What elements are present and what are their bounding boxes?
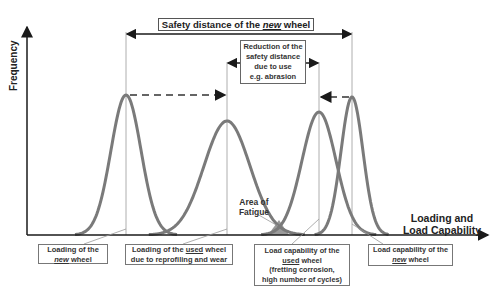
label-text: wheel [69,255,92,264]
leader-lines [84,214,383,244]
title-text-post: wheel [281,19,310,30]
label-line: Loading of the used wheel [126,245,232,255]
safety-distance-diagram: Safety distance of the new wheel Reducti… [0,0,493,300]
title-text-em: new [263,19,281,30]
x-axis-label: Loading and Load Capability [397,212,487,236]
label-line: new wheel [369,255,452,265]
label-line: Load capability of the [369,245,452,255]
reduction-line: due to use [241,62,305,72]
fatigue-label-line: Fatigue [231,207,277,217]
fatigue-label: Area of Fatigue [231,197,277,217]
x-axis-label-line: Loading and [397,212,487,224]
label-line: Load capability of the [255,246,349,256]
label-text: Loading of the [132,245,186,254]
loading-used-label: Loading of the used wheel due to reprofi… [125,244,233,265]
label-line: Loading of the [39,245,107,255]
reduction-line: Reduction of the [241,42,305,52]
label-line: due to reprofiling and wear [126,255,232,265]
capability-new-label: Load capability of the new wheel [368,244,453,266]
label-line: new wheel [39,255,107,265]
x-axis-label-line: Load Capability [397,224,487,236]
label-text: wheel [299,256,321,265]
fatigue-label-line: Area of [231,197,277,207]
reduction-line: e.g. abrasion [241,72,305,82]
y-axis-label: Frequency [8,36,20,96]
label-em: used [186,245,204,254]
capability-used-label: Load capability of the used wheel (frett… [254,244,350,286]
reduction-label: Reduction of the safety distance due to … [240,40,306,84]
label-em: used [282,256,299,265]
label-line: high number of cycles) [255,275,349,285]
label-line: used wheel [255,256,349,266]
reduction-line: safety distance [241,52,305,62]
safety-distance-label: Safety distance of the new wheel [158,18,314,31]
label-text: wheel [203,245,226,254]
title-text-pre: Safety distance of the [162,19,263,30]
label-em: new [392,255,406,264]
label-line: (fretting corrosion, [255,265,349,275]
loading-new-label: Loading of the new wheel [38,244,108,264]
label-text: wheel [406,255,428,264]
label-em: new [54,255,69,264]
